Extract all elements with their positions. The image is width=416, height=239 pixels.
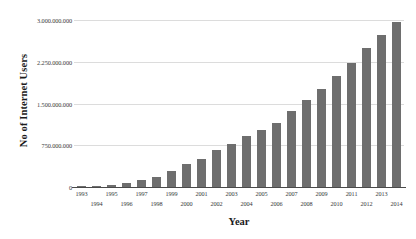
bar: [182, 164, 191, 187]
x-axis-tick-label: 1999: [166, 190, 178, 197]
bar: [332, 76, 341, 187]
x-axis-tick-label: 2002: [211, 200, 223, 207]
bar: [392, 22, 401, 187]
y-axis-tick-label: 1.500.000.000: [18, 100, 72, 107]
x-axis-tick-label: 2011: [346, 190, 358, 197]
bar: [212, 150, 221, 187]
plot-area: [74, 20, 404, 187]
x-axis-tick-label: 2009: [316, 190, 328, 197]
bar: [362, 48, 371, 187]
bar: [302, 100, 311, 187]
x-axis-tick-label: 2013: [376, 190, 388, 197]
bar: [227, 144, 236, 187]
y-axis-tick-label: 0: [18, 184, 72, 191]
bar: [242, 136, 251, 187]
x-axis-tick-label: 1995: [106, 190, 118, 197]
x-axis-tick-label: 2010: [331, 200, 343, 207]
x-axis-title: Year: [74, 216, 404, 227]
y-axis-tick-label: 750.000.000: [18, 142, 72, 149]
internet-users-bar-chart: No of Internet Users 0750.000.0001.500.0…: [0, 0, 416, 239]
x-axis-tick-label: 2001: [196, 190, 208, 197]
x-axis-tick-label: 2007: [286, 190, 298, 197]
x-axis-tick-label: 2008: [301, 200, 313, 207]
x-axis-tick-label: 2003: [226, 190, 238, 197]
x-axis-tick-label: 2000: [181, 200, 193, 207]
bar: [137, 180, 146, 187]
y-axis-tick-labels: 0750.000.0001.500.000.0002.250.000.0003.…: [18, 0, 72, 239]
x-axis-tick-label: 1994: [91, 200, 103, 207]
x-axis-tick-label: 1996: [121, 200, 133, 207]
y-axis-tick-label: 2.250.000.000: [18, 58, 72, 65]
bar: [377, 35, 386, 187]
bar: [152, 177, 161, 187]
y-axis-tick-label: 3.000.000.000: [18, 17, 72, 24]
x-axis-tick-labels: 1993199419951996199719981999200020012002…: [74, 189, 404, 215]
bar: [197, 159, 206, 187]
bar: [167, 171, 176, 187]
bar: [317, 89, 326, 187]
x-axis-tick-label: 1993: [76, 190, 88, 197]
x-axis-tick-label: 1997: [136, 190, 148, 197]
x-axis-tick-label: 2005: [256, 190, 268, 197]
bar-series: [74, 20, 404, 187]
x-axis-tick-label: 1998: [151, 200, 163, 207]
bar: [257, 130, 266, 187]
x-axis-tick-label: 2014: [391, 200, 403, 207]
x-axis-tick-label: 2004: [241, 200, 253, 207]
bar: [347, 63, 356, 187]
x-axis-tick-label: 2006: [271, 200, 283, 207]
x-axis-tick-label: 2012: [361, 200, 373, 207]
bar: [272, 123, 281, 187]
bar: [287, 111, 296, 187]
